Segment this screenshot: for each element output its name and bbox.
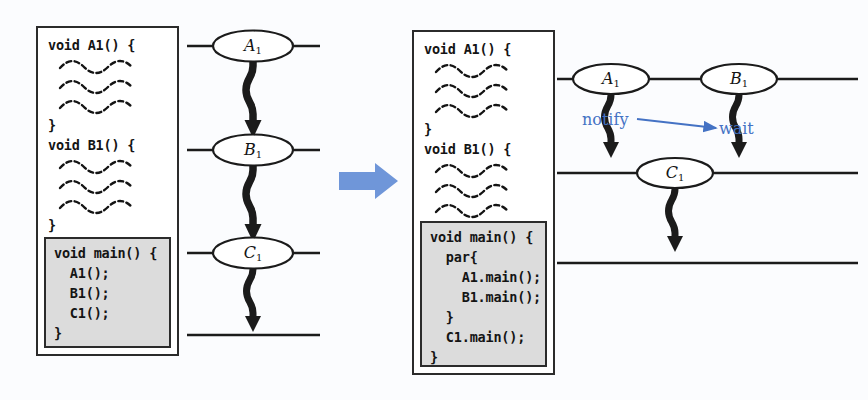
code-line: void B1() { bbox=[424, 139, 549, 159]
squiggle-line bbox=[424, 199, 549, 219]
right-code-box: void A1() { } void B1() { } void C1() bbox=[412, 30, 555, 375]
node-label-c1: C1 bbox=[244, 243, 263, 263]
right-parallel-diagram bbox=[557, 64, 858, 263]
right-main-block: void main() { par{ A1.main(); B1.main();… bbox=[420, 221, 547, 367]
code-line: void A1() { bbox=[424, 39, 549, 59]
code-line: void A1() { bbox=[48, 35, 173, 55]
left-main-block: void main() { A1(); B1(); C1(); } bbox=[44, 237, 171, 348]
node-label-a1: A1 bbox=[602, 69, 620, 89]
squiggle-line bbox=[424, 79, 549, 99]
code-line: } bbox=[430, 347, 541, 367]
figure-canvas: void A1() { } void B1() { } void C1() bbox=[0, 0, 868, 400]
squiggle-line bbox=[48, 175, 173, 195]
code-line: void main() { bbox=[54, 243, 165, 263]
squiggle-line bbox=[48, 55, 173, 75]
left-sequence-diagram bbox=[187, 31, 320, 336]
squiggle-line bbox=[48, 75, 173, 95]
code-line: } bbox=[430, 307, 541, 327]
squiggle-line bbox=[48, 195, 173, 215]
left-code-box: void A1() { } void B1() { } void C1() bbox=[36, 26, 179, 356]
code-line: A1(); bbox=[54, 263, 165, 283]
squiggle-line bbox=[424, 59, 549, 79]
squiggle-line bbox=[424, 159, 549, 179]
node-label-a1: A1 bbox=[244, 36, 262, 56]
code-line: B1(); bbox=[54, 283, 165, 303]
code-line: } bbox=[48, 115, 173, 135]
code-line: C1.main(); bbox=[430, 327, 541, 347]
squiggle-line bbox=[424, 179, 549, 199]
notify-label: notify bbox=[582, 110, 628, 129]
squiggle-line bbox=[48, 95, 173, 115]
code-line: B1.main(); bbox=[430, 287, 541, 307]
code-line: } bbox=[54, 323, 165, 343]
code-line: void main() { bbox=[430, 227, 541, 247]
code-line: C1(); bbox=[54, 303, 165, 323]
code-line: } bbox=[48, 215, 173, 235]
node-label-c1: C1 bbox=[666, 163, 685, 183]
node-label-b1: B1 bbox=[244, 140, 262, 160]
code-line: void B1() { bbox=[48, 135, 173, 155]
code-line: par{ bbox=[430, 247, 541, 267]
node-label-b1: B1 bbox=[730, 69, 748, 89]
squiggle-line bbox=[424, 99, 549, 119]
notify-wait-arrow bbox=[637, 119, 716, 128]
transform-arrow bbox=[339, 163, 398, 199]
wait-label: wait bbox=[719, 119, 754, 138]
squiggle-line bbox=[48, 155, 173, 175]
code-line: } bbox=[424, 119, 549, 139]
code-line: A1.main(); bbox=[430, 267, 541, 287]
